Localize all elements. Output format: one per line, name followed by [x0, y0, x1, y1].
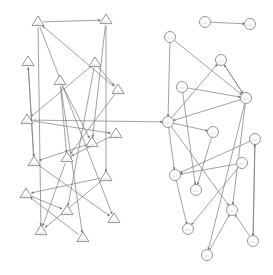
edge-T1-T16 [38, 28, 41, 226]
edge-C6-C7 [173, 100, 240, 121]
circle-node-icon [163, 117, 174, 128]
edge-T7-C7 [33, 120, 163, 122]
edge-C1-C2 [211, 22, 245, 24]
edge-C6-C16 [208, 103, 244, 249]
edge-T10-T3 [28, 68, 33, 157]
circle-node-icon [227, 205, 238, 216]
edge-C6-C13 [233, 104, 246, 205]
circle-node-icon [191, 185, 202, 196]
circle-node-icon [248, 236, 259, 247]
edge-T1-T2 [44, 20, 101, 22]
edge-T4-T14 [68, 68, 94, 205]
circle-node-icon [237, 158, 248, 169]
edge-T12-T13 [31, 178, 100, 193]
edge-C15-C13 [235, 215, 250, 237]
circle-node-icon [165, 32, 176, 43]
circle-node-icon [183, 224, 194, 235]
circle-node-icon [202, 250, 213, 261]
edge-T13-T14 [31, 196, 62, 209]
circle-node-icon [208, 127, 219, 138]
circle-node-icon [245, 19, 256, 30]
edge-C9-C15 [253, 145, 255, 236]
edge-C10-C14 [176, 180, 186, 223]
edge-T17-T13 [30, 197, 78, 234]
edge-T4-T6 [99, 67, 115, 86]
graph-canvas [0, 0, 273, 275]
edge-T11-T16 [43, 163, 65, 226]
edge-T7-T8 [32, 121, 110, 133]
circle-node-icon [241, 93, 252, 104]
network-diagram [0, 0, 273, 275]
circle-node-icon [177, 82, 188, 93]
edge-C5-C6 [187, 88, 240, 97]
circle-node-icon [216, 55, 227, 66]
circle-node-icon [250, 134, 261, 145]
edge-C8-C12 [198, 137, 212, 184]
edge-C7-C10 [169, 128, 175, 170]
circle-node-icon [170, 170, 181, 181]
circle-node-icon [200, 17, 211, 28]
edge-C7-C8 [173, 123, 207, 131]
edge-C3-C7 [168, 43, 170, 117]
edge-C11-C14 [192, 167, 239, 224]
edge-C6-C4 [224, 65, 243, 94]
